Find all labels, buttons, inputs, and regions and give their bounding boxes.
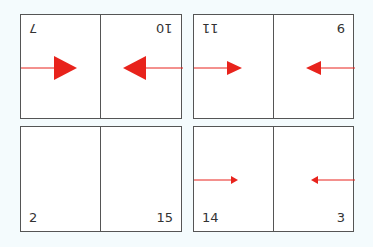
arrow-left-icon <box>306 61 321 75</box>
arrow-right-icon <box>231 176 238 184</box>
page-number-left: 2 <box>29 210 37 225</box>
page-number-right: 15 <box>156 210 173 225</box>
arrows-medium <box>194 15 355 120</box>
arrow-left-icon <box>123 56 146 80</box>
arrow-left-icon <box>311 176 318 184</box>
panel-bottom-left: 2 15 <box>20 126 182 232</box>
arrows-large <box>21 15 183 120</box>
arrow-right-icon <box>227 61 242 75</box>
panel-top-right: 11 6 <box>193 14 354 119</box>
panel-top-left: 7 10 <box>20 14 182 119</box>
panel-bottom-right: 14 3 <box>193 126 354 232</box>
arrows-small <box>194 127 355 233</box>
arrow-right-icon <box>54 56 77 80</box>
page-divider <box>100 127 101 231</box>
